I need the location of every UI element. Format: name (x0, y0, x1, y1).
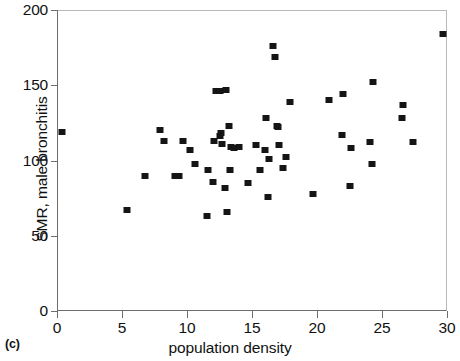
y-axis-label: SMR, male bronchitis (33, 49, 51, 289)
x-axis-tick-label: 15 (232, 319, 272, 337)
x-axis-tick (187, 311, 188, 318)
x-axis-tick-label: 5 (102, 319, 142, 337)
y-axis-tick-label: 200 (23, 1, 48, 19)
x-axis-tick (122, 311, 123, 318)
x-axis-tick-label: 20 (297, 319, 337, 337)
x-axis-tick-label: 0 (37, 319, 77, 337)
x-axis-label: population density (0, 339, 460, 357)
x-axis-tick-label: 25 (362, 319, 402, 337)
y-axis-tick (51, 236, 58, 237)
x-axis-tick (382, 311, 383, 318)
y-axis-tick (51, 85, 58, 86)
x-axis-tick-label: 10 (167, 319, 207, 337)
y-axis-tick-label: 0 (40, 302, 48, 320)
y-axis-tick (51, 10, 58, 11)
scatter-figure: 050100150200051015202530 population dens… (0, 0, 460, 361)
x-axis-tick-label: 30 (427, 319, 460, 337)
x-axis-tick (317, 311, 318, 318)
panel-caption: (c) (5, 337, 20, 351)
plot-frame (57, 10, 447, 311)
x-axis-tick (252, 311, 253, 318)
x-axis-tick (57, 311, 58, 318)
x-axis-tick (447, 311, 448, 318)
y-axis-tick (51, 161, 58, 162)
